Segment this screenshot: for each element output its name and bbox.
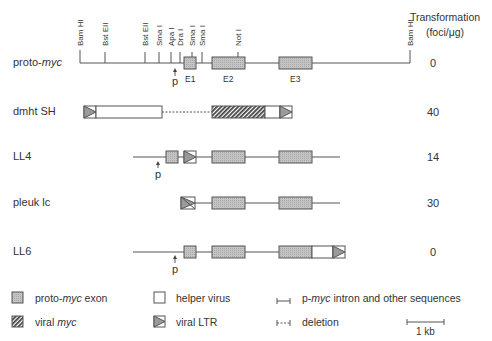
proto-myc-exon xyxy=(166,151,178,163)
construct-dmht-sh xyxy=(84,106,292,118)
legend-text-italic: myc xyxy=(57,316,76,328)
exon-e3 xyxy=(279,197,312,209)
legend-helper-virus: helper virus xyxy=(176,292,230,304)
viral-myc xyxy=(212,106,265,118)
construct-ll6 xyxy=(133,246,345,263)
exon-e3 xyxy=(279,246,312,258)
legend-text-italic: myc xyxy=(62,292,81,304)
exon-e2 xyxy=(212,151,245,163)
legend-text: intron and other sequences xyxy=(331,292,461,304)
legend-helper-virus-swatch xyxy=(154,292,165,303)
scale-bar-label: 1 kb xyxy=(416,326,435,337)
helper-virus xyxy=(265,106,280,118)
legend-viral-myc-swatch xyxy=(12,316,23,327)
legend-intron: p-myc intron and other sequences xyxy=(302,292,461,304)
legend-text: exon xyxy=(82,292,108,304)
construct-pleuk-lc xyxy=(181,197,340,209)
construct-proto-myc xyxy=(80,50,410,76)
legend-proto-myc-exon: proto-myc exon xyxy=(35,292,107,304)
legend-text-italic: myc xyxy=(311,292,330,304)
exon-e3 xyxy=(279,151,312,163)
helper-virus xyxy=(96,106,162,118)
exon-e2 xyxy=(212,197,245,209)
exon-e2 xyxy=(212,246,245,258)
helper-virus xyxy=(312,246,333,258)
exon-e1 xyxy=(184,57,196,69)
legend-viral-ltr: viral LTR xyxy=(176,316,217,328)
construct-ll4 xyxy=(133,151,340,168)
exon-e3 xyxy=(279,57,312,69)
legend-text: viral xyxy=(35,316,57,328)
legend-text: p- xyxy=(302,292,311,304)
gene-map-diagram xyxy=(0,0,492,341)
legend-text: proto- xyxy=(35,292,62,304)
exon-e1 xyxy=(184,246,196,258)
legend-viral-myc: viral myc xyxy=(35,316,76,328)
legend-deletion: deletion xyxy=(302,316,339,328)
exon-e2 xyxy=(212,57,245,69)
legend-proto-myc-exon-swatch xyxy=(12,292,23,303)
